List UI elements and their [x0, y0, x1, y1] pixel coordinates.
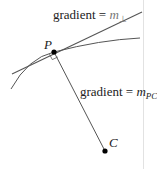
tangent-gradient-prefix: gradient = — [53, 7, 109, 22]
point-p-label: P — [43, 37, 52, 52]
radius-gradient-prefix: gradient = — [80, 84, 136, 99]
circle-arc — [11, 38, 140, 89]
point-c — [102, 148, 107, 153]
radius-gradient-label: gradient = mPC — [80, 84, 157, 101]
radius-gradient-symbol: m — [136, 84, 145, 99]
circle-tangent-diagram: P C gradient = m⊥ gradient = mPC — [0, 0, 157, 169]
tangent-gradient-subscript: ⊥ — [119, 14, 127, 24]
radius-gradient-subscript: PC — [145, 91, 157, 101]
point-p — [51, 49, 56, 54]
radius-line-pc — [54, 52, 105, 151]
tangent-gradient-label: gradient = m⊥ — [53, 7, 127, 24]
point-c-label: C — [109, 135, 118, 150]
tangent-gradient-symbol: m — [109, 7, 118, 22]
